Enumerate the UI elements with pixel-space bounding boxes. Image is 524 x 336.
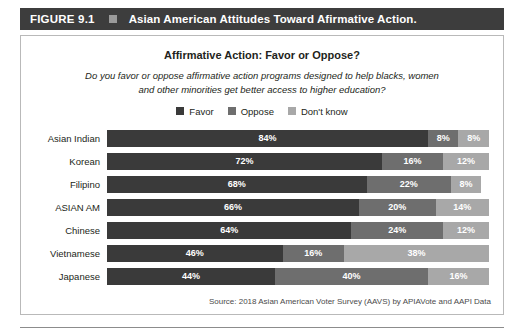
chart-row: ASIAN AM66%20%14% [21, 196, 489, 219]
bar-segment-oppose: 16% [283, 245, 344, 262]
row-category-label: Vietnamese [21, 248, 107, 259]
chart-row: Asian Indian84%8%8% [21, 127, 489, 150]
stacked-bar: 72%16%12% [107, 153, 489, 170]
legend-label: Oppose [241, 106, 274, 117]
stacked-bar: 68%22%8% [107, 176, 489, 193]
stacked-bar: 46%16%38% [107, 245, 489, 262]
stacked-bar: 84%8%8% [107, 130, 489, 147]
bar-segment-favor: 64% [107, 222, 351, 239]
bar-segment-oppose: 24% [351, 222, 443, 239]
square-marker-icon [109, 15, 117, 23]
bottom-divider [20, 327, 504, 328]
bar-segment-oppose: 8% [428, 130, 459, 147]
figure-number: FIGURE 9.1 [30, 13, 95, 25]
legend-swatch-icon [228, 107, 236, 115]
legend-item: Oppose [228, 106, 274, 117]
source-note: Source: 2018 Asian American Voter Survey… [209, 297, 491, 306]
bar-segment-dont-know: 16% [428, 268, 489, 285]
figure-title: Asian American Attitudes Toward Afirmati… [129, 13, 417, 25]
chart-legend: FavorOpposeDon't know [21, 106, 503, 117]
bar-segment-dont-know: 14% [436, 199, 489, 216]
row-category-label: Japanese [21, 271, 107, 282]
legend-item: Favor [176, 106, 213, 117]
bar-segment-dont-know: 8% [458, 130, 489, 147]
bar-segment-oppose: 22% [367, 176, 451, 193]
bar-segment-favor: 72% [107, 153, 382, 170]
chart-row: Vietnamese46%16%38% [21, 242, 489, 265]
stacked-bar: 64%24%12% [107, 222, 489, 239]
bar-segment-dont-know: 12% [443, 222, 489, 239]
chart-title: Affirmative Action: Favor or Oppose? [21, 49, 503, 61]
row-category-label: Asian Indian [21, 133, 107, 144]
chart-row: Filipino68%22%8% [21, 173, 489, 196]
legend-label: Favor [189, 106, 213, 117]
chart-subtitle: Do you favor or oppose affirmative actio… [82, 69, 442, 97]
stacked-bar: 44%40%16% [107, 268, 489, 285]
chart-plot-area: Asian Indian84%8%8%Korean72%16%12%Filipi… [21, 127, 503, 288]
bar-segment-dont-know: 12% [443, 153, 489, 170]
stacked-bar: 66%20%14% [107, 199, 489, 216]
bar-segment-oppose: 40% [275, 268, 428, 285]
figure-header: FIGURE 9.1 Asian American Attitudes Towa… [20, 8, 504, 30]
bar-segment-dont-know: 38% [344, 245, 489, 262]
legend-swatch-icon [288, 107, 296, 115]
row-category-label: ASIAN AM [21, 202, 107, 213]
row-category-label: Chinese [21, 225, 107, 236]
chart-row: Chinese64%24%12% [21, 219, 489, 242]
bar-segment-favor: 84% [107, 130, 428, 147]
row-category-label: Filipino [21, 179, 107, 190]
legend-label: Don't know [301, 106, 348, 117]
bar-segment-oppose: 16% [382, 153, 443, 170]
bar-segment-oppose: 20% [359, 199, 435, 216]
chart-panel: Affirmative Action: Favor or Oppose? Do … [20, 35, 504, 315]
legend-swatch-icon [176, 107, 184, 115]
bar-segment-favor: 68% [107, 176, 367, 193]
bar-segment-dont-know: 8% [451, 176, 482, 193]
bar-segment-favor: 44% [107, 268, 275, 285]
chart-row: Korean72%16%12% [21, 150, 489, 173]
chart-row: Japanese44%40%16% [21, 265, 489, 288]
bar-segment-favor: 66% [107, 199, 359, 216]
row-category-label: Korean [21, 156, 107, 167]
legend-item: Don't know [288, 106, 348, 117]
bar-segment-favor: 46% [107, 245, 283, 262]
